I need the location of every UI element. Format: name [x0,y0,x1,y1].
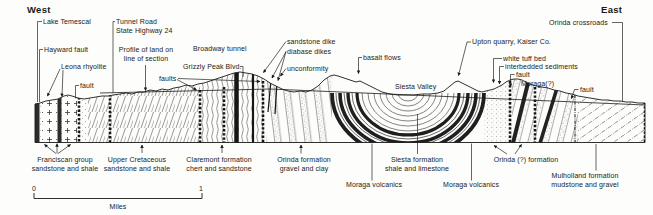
lake-temescal-label: Lake Temescal [43,18,91,27]
mulholland-formation-label: Mulholland formation mudstone and gravel [551,172,618,190]
orinda-query-formation-label: Orinda (?) formation [494,156,559,165]
scale-bar [34,193,202,199]
moraga-volcanics-west-label: Moraga volcanics [346,181,402,190]
orinda-crossroads-label: Orinda crossroads [549,19,608,28]
east-label: East [601,4,622,16]
basalt-flows-label: basalt flows [363,54,401,63]
orinda-formation-label: Orinda formation gravel and clay [277,156,331,174]
upper-cretaceous-label: Upper Cretaceous sandstone and shale [104,156,171,174]
upton-quarry-label: Upton quarry, Kaiser Co. [472,38,551,47]
moraga-volcanics-east-label: Moraga volcanics [443,181,499,190]
geologic-cross-section-figure: West East Lake Temescal Tunnel Road Stat… [0,0,653,215]
fault-east-label: fault [580,86,594,95]
sandstone-dike-label: sandstone dike [287,38,336,47]
claremont-formation-label: Claremont formation chert and sandstone [186,156,251,174]
broadway-tunnel-label: Broadway tunnel [193,45,247,54]
section-fill-patterns [35,68,648,157]
scale-unit-label: Miles [110,203,127,212]
scale-start-label: 0 [32,185,36,194]
diabase-dikes-label: diabase dikes [287,48,331,57]
grizzly-peak-blvd-label: Grizzly Peak Blvd. [183,63,242,72]
moraga-volcanics-bands [332,93,484,157]
profile-note-label: Profile of land on line of section [119,46,173,64]
hayward-fault-label: Hayward fault [44,46,88,55]
moraga-query-label: Moraga(?) [521,80,554,89]
siesta-formation-label: Siesta formation shale and limestone [385,156,449,174]
unconformity-label: unconformity [287,65,328,74]
faults-label: faults [159,75,176,84]
scale-end-label: 1 [199,185,203,194]
fault-west-label: fault [80,82,94,91]
tunnel-road-label: Tunnel Road State Highway 24 [116,18,172,36]
fault-center-label: fault [516,71,530,80]
west-label: West [27,4,51,16]
siesta-valley-label: Siesta Valley [395,83,436,92]
leona-rhyolite-label: Leona rhyolite [61,63,106,72]
franciscan-formation-label: Franciscan group sandstone and shale [32,156,99,174]
